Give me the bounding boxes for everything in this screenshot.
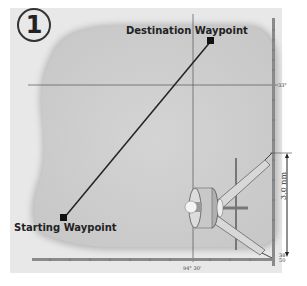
chart-canvas <box>0 0 307 286</box>
starting-waypoint-label: Starting Waypoint <box>14 222 117 233</box>
destination-waypoint-icon <box>207 37 214 44</box>
bottom-ruler <box>32 258 272 261</box>
latitude-label: 33° <box>278 82 287 88</box>
distance-label: 3.0 nm <box>279 172 288 200</box>
land-area <box>34 26 275 247</box>
longitude-label: 94° 30' <box>183 265 201 271</box>
corner-label: 38 50 <box>279 253 287 263</box>
chart-diagram: 1 Destination Waypoint Starting Waypoint… <box>0 0 307 286</box>
starting-waypoint-icon <box>60 214 67 221</box>
destination-waypoint-label: Destination Waypoint <box>126 25 248 36</box>
right-ruler <box>272 18 275 266</box>
step-number-badge: 1 <box>17 8 51 42</box>
